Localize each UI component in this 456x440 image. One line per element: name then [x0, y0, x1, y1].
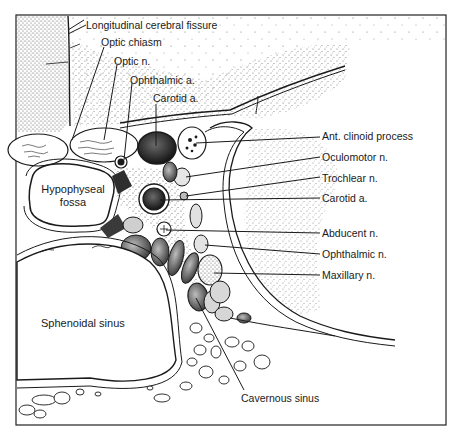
optic-nerve-shape — [70, 128, 138, 162]
cavernous-sinus-illustration — [0, 0, 456, 440]
carotid-artery-top-shape — [138, 132, 176, 164]
label-hypophyseal-fossa: Hypophyseal fossa — [38, 183, 108, 209]
label-ant-clinoid-process: Ant. clinoid process — [322, 130, 413, 142]
label-longitudinal-cerebral-fissure: Longitudinal cerebral fissure — [86, 19, 217, 31]
label-carotid-artery-right: Carotid a. — [322, 192, 368, 204]
sphenoidal-sinus-shape — [17, 244, 176, 381]
label-trochlear-nerve: Trochlear n. — [322, 172, 378, 184]
label-oculomotor-nerve: Oculomotor n. — [322, 151, 388, 163]
label-hypophyseal-fossa-line2: fossa — [38, 196, 108, 209]
label-optic-nerve: Optic n. — [114, 55, 150, 67]
label-ophthalmic-artery: Ophthalmic a. — [130, 74, 195, 86]
label-optic-chiasm: Optic chiasm — [101, 36, 162, 48]
label-sphenoidal-sinus: Sphenoidal sinus — [41, 317, 125, 329]
label-maxillary-nerve: Maxillary n. — [322, 269, 375, 281]
ophthalmic-nerve-shape — [194, 235, 208, 253]
label-carotid-artery-top: Carotid a. — [153, 92, 199, 104]
anatomy-figure: Longitudinal cerebral fissure Optic chia… — [0, 0, 456, 440]
label-abducent-nerve: Abducent n. — [322, 227, 378, 239]
brain-tissue-left — [17, 16, 70, 132]
label-cavernous-sinus: Cavernous sinus — [241, 392, 319, 404]
label-ophthalmic-nerve: Ophthalmic n. — [322, 248, 387, 260]
optic-chiasm-shape — [8, 134, 68, 166]
maxillary-nerve-shape — [198, 255, 222, 285]
label-hypophyseal-fossa-line1: Hypophyseal — [38, 183, 108, 196]
